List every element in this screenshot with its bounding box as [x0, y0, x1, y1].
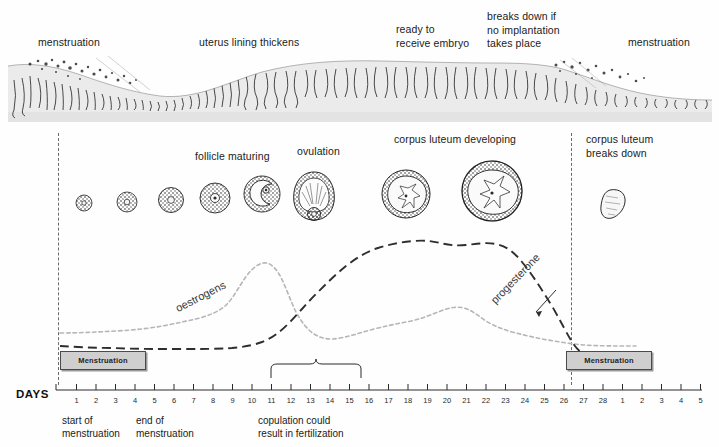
- label-uterus-lining-thickens: uterus lining thickens: [199, 36, 299, 50]
- label-ovulation: ovulation: [297, 145, 340, 159]
- axis-tick-label: 6: [172, 396, 176, 405]
- axis-tick-label: 26: [560, 396, 568, 405]
- oestrogens-curve: [60, 263, 636, 346]
- ovary-ovulating-follicle: [294, 172, 335, 221]
- uterus-lining-illustration: [0, 52, 719, 130]
- axis-tick-label: 5: [152, 396, 156, 405]
- ovary-tertiary-follicle: [200, 183, 230, 213]
- axis-tick-label: 23: [501, 396, 509, 405]
- axis-tick-label: 20: [443, 396, 451, 405]
- axis-tick-label: 27: [579, 396, 587, 405]
- label-menstruation-right: menstruation: [628, 36, 690, 50]
- ovary-corpus-albicans: [601, 190, 625, 219]
- axis-tick-label: 28: [599, 396, 607, 405]
- label-corpus-luteum-developing: corpus luteum developing: [394, 133, 516, 147]
- axis-tick-label: 7: [191, 396, 195, 405]
- axis-tick-label: 16: [365, 396, 373, 405]
- axis-tick-label: 18: [404, 396, 412, 405]
- axis-tick-label: 2: [94, 396, 98, 405]
- ovary-primary-follicle: [117, 192, 137, 212]
- axis-tick-label: 5: [698, 396, 702, 405]
- axis-tick-label: 1: [74, 396, 78, 405]
- menstrual-cycle-diagram: menstruation uterus lining thickens read…: [0, 0, 719, 447]
- label-ready-to-receive-embryo: ready to receive embryo: [396, 23, 469, 50]
- ovary-corpus-luteum-early: [382, 170, 430, 218]
- endometrium-tissue: [8, 61, 712, 122]
- label-corpus-luteum-breaks-down: corpus luteum breaks down: [586, 133, 653, 160]
- axis-tick-label: 10: [248, 396, 256, 405]
- menstruation-bar-start: Menstruation: [60, 351, 146, 370]
- footnote-copulation-fertilization: copulation could result in fertilization: [258, 414, 344, 440]
- axis-tick-label: 19: [423, 396, 431, 405]
- axis-tick-label: 2: [640, 396, 644, 405]
- axis-tick-label: 14: [326, 396, 334, 405]
- axis-tick-label: 1: [620, 396, 624, 405]
- progesterone-leader: [536, 290, 556, 317]
- ovary-graafian-follicle: [244, 176, 280, 212]
- axis-tick-label: 13: [306, 396, 314, 405]
- ovary-secondary-follicle: [159, 188, 184, 213]
- label-menstruation-left: menstruation: [38, 36, 100, 50]
- days-axis-caption: DAYS: [16, 388, 49, 400]
- ovary-primordial-follicle: [76, 195, 92, 211]
- label-breaks-down-no-implantation: breaks down if no implantation takes pla…: [487, 10, 560, 51]
- axis-tick-label: 12: [287, 396, 295, 405]
- footnote-start-of-menstruation: start of menstruation: [62, 414, 120, 440]
- axis-tick-label: 9: [230, 396, 234, 405]
- axis-tick-label: 3: [113, 396, 117, 405]
- day-axis: [0, 376, 719, 406]
- axis-tick-label: 8: [211, 396, 215, 405]
- label-follicle-maturing: follicle maturing: [195, 150, 270, 164]
- axis-tick-label: 11: [268, 396, 276, 405]
- ovary-corpus-luteum-mature: [462, 161, 522, 221]
- axis-tick-label: 21: [462, 396, 470, 405]
- axis-tick-label: 25: [540, 396, 548, 405]
- axis-tick-label: 15: [345, 396, 353, 405]
- axis-tick-label: 17: [384, 396, 392, 405]
- axis-tick-label: 3: [659, 396, 663, 405]
- axis-tick-label: 24: [521, 396, 529, 405]
- menstruation-bar-next-cycle: Menstruation: [566, 351, 652, 370]
- footnote-end-of-menstruation: end of menstruation: [136, 414, 194, 440]
- axis-tick-label: 4: [679, 396, 683, 405]
- axis-tick-label: 4: [133, 396, 137, 405]
- axis-tick-label: 22: [482, 396, 490, 405]
